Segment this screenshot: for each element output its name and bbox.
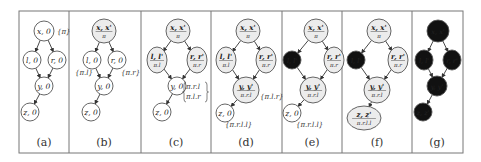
node-label: x, x': [370, 23, 386, 32]
node-label: l, l': [287, 57, 297, 65]
node-label: x, x': [169, 23, 185, 32]
node-z: z, 0: [216, 104, 234, 122]
path-set-annotation: {π.r}: [121, 69, 140, 77]
node-r: r, 0: [108, 51, 126, 69]
edge-l-y: [361, 67, 369, 79]
edge-l-y: [428, 68, 433, 77]
figure-canvas: x, 0l, 0r, 0y, 0z, 0{π}(a)x, x'πl, 0r, 0…: [0, 0, 481, 162]
panel-d: x, x'πl, l'π.lr, r'π.ry, y'π.r.lz, 0{π.l…: [216, 19, 284, 149]
node-label: z, z': [416, 109, 430, 117]
node-label: l, l': [419, 57, 429, 65]
node-label: r, r': [391, 52, 405, 61]
node-x: x, x'π: [236, 19, 260, 43]
edge-x-l: [298, 40, 309, 53]
node-r: r, 0: [48, 51, 66, 69]
node-label: z, 0: [83, 108, 98, 117]
panel-caption: (g): [429, 136, 445, 149]
node-y: y, y'π.r.l: [233, 77, 259, 103]
node-label: x, x': [307, 23, 323, 32]
edge-l-y: [36, 68, 40, 78]
node-label: r, r': [190, 52, 204, 61]
node-z: z, 0: [82, 103, 100, 121]
node-x: x, x'π: [367, 19, 391, 43]
node-label: l, l': [151, 52, 163, 61]
panel-a: x, 0l, 0r, 0y, 0z, 0{π}(a): [21, 21, 71, 149]
edge-r-y: [48, 68, 53, 78]
node-label: z, 0: [22, 108, 37, 117]
node-label: z, 0: [217, 109, 232, 118]
path-set-annotation: π.l.r: [185, 93, 201, 101]
edge-l-y: [163, 68, 171, 79]
node-label: l, 0: [26, 56, 38, 65]
edge-x-r: [254, 41, 260, 50]
node-path-label: π.r: [261, 62, 270, 68]
node-z: z, 0: [21, 103, 39, 121]
node-r: r, r'π.r: [187, 47, 207, 73]
panel-caption: (a): [36, 136, 51, 149]
node-z: z, z'π.r.l.l: [347, 106, 381, 130]
edge-x-r: [322, 41, 328, 50]
edge-x-l: [232, 41, 240, 52]
panel-caption: (f): [371, 136, 384, 149]
node-label: y, y': [305, 82, 320, 91]
path-set-annotation: {π.r.l.l}: [296, 121, 323, 129]
node-label: r, 0: [111, 56, 124, 65]
node-r: r, r': [443, 50, 461, 70]
path-set-annotation: π.r.l: [185, 83, 200, 91]
edge-l-y: [297, 67, 305, 79]
node-path-label: π: [175, 33, 180, 39]
edge-x-r: [48, 40, 53, 52]
panels: x, 0l, 0r, 0y, 0z, 0{π}(a)x, x'πl, 0r, 0…: [21, 19, 461, 149]
panel-caption: (c): [169, 136, 184, 149]
edge-y-z: [166, 94, 172, 104]
node-path-label: π: [376, 33, 381, 39]
node-path-label: π.r: [393, 62, 402, 68]
path-set-annotation: {π.r.l.l}: [225, 121, 252, 129]
node-label: y, 0: [170, 82, 184, 91]
panel-caption: (e): [304, 136, 319, 149]
edge-y-z: [231, 100, 237, 107]
node-path-label: π.r.l.l: [356, 120, 372, 126]
panel-b: x, x'πl, 0r, 0y, 0z, 0{π.l}{π.r}(b): [75, 19, 140, 149]
node-label: l, l': [220, 52, 232, 61]
node-y: y, y': [427, 76, 447, 96]
panel-g: x, x'l, l'r, r'y, y'z, z'(g): [414, 20, 461, 149]
node-x: x, x': [427, 20, 449, 42]
node-label: y, y': [238, 82, 253, 91]
node-y: y, y'π.r.l: [364, 77, 390, 103]
node-x: x, 0: [34, 21, 54, 41]
node-label: x, x': [239, 23, 255, 32]
node-l: l, 0: [23, 51, 41, 69]
node-path-label: π.l: [152, 62, 160, 68]
node-z: z, 0: [283, 104, 301, 122]
node-l: l, l': [347, 51, 365, 69]
node-r: r, r'π.r: [256, 47, 276, 73]
edge-l-y: [96, 68, 100, 78]
edge-y-z: [34, 94, 39, 104]
panel-caption: (d): [238, 136, 254, 149]
panel-caption: (b): [96, 136, 112, 149]
node-z: z, 0: [153, 103, 171, 121]
node-label: y, 0: [37, 82, 51, 91]
node-label: y, y': [369, 82, 384, 91]
edge-x-r: [443, 41, 448, 52]
panel-c: x, x'πl, l'π.lr, r'π.ry, 0z, 0π.r.lπ.l.r…: [147, 19, 209, 149]
path-set-annotation: {π.l.r}: [260, 93, 284, 101]
node-path-label: π.r.l: [371, 92, 383, 98]
node-z: z, z': [414, 103, 432, 121]
node-path-label: π: [101, 33, 106, 39]
edge-y-z: [298, 100, 304, 107]
node-path-label: π.l: [221, 62, 229, 68]
node-x: x, x'π: [304, 19, 328, 43]
node-r: r, r'π.r: [388, 47, 408, 73]
edge-y-z: [95, 94, 100, 104]
edge-r-y: [442, 68, 448, 78]
node-l: l, l'π.l: [216, 47, 236, 73]
node-y: y, 0: [35, 77, 53, 95]
edge-r-y: [108, 68, 113, 78]
node-label: x, x': [95, 23, 111, 32]
node-path-label: π.r.l: [240, 92, 252, 98]
node-label: z, z': [356, 110, 372, 119]
edge-x-l: [95, 42, 99, 52]
panel-e: x, x'πl, l'r, r'π.ry, y'π.r.lz, 0{π.r.l.…: [283, 19, 344, 149]
